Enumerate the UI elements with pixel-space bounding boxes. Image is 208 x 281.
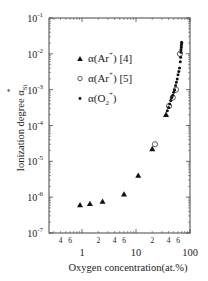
x-minor-tick-label: 4 [59, 236, 63, 245]
legend-label: α(Ar+) [5] [88, 70, 132, 85]
legend-triangle-icon [77, 56, 83, 61]
triangle-marker [135, 172, 141, 177]
x-minor-tick-label: 6 [122, 236, 126, 245]
y-tick-label: 10-3 [27, 83, 43, 96]
x-minor-tick-label: 2 [96, 236, 100, 245]
x-minor-tick-label: 6 [176, 236, 180, 245]
dot-marker [176, 77, 179, 80]
dot-marker [166, 109, 169, 112]
x-tick-label: 1 [79, 247, 84, 258]
y-tick-label: 10-4 [27, 119, 43, 132]
x-minor-tick-label: 4 [167, 236, 171, 245]
x-minor-tick-label: 4 [113, 236, 117, 245]
x-tick-label: 100 [182, 247, 198, 258]
chart: 10-710-610-510-410-310-210-1 11010046246… [0, 0, 208, 281]
triangle-marker [87, 201, 93, 206]
svg-text:Ionization degree αSi*: Ionization degree αSi* [6, 84, 29, 171]
x-minor-tick-label: 2 [150, 236, 154, 245]
dot-marker [168, 102, 171, 105]
y-tick-label: 10-2 [27, 47, 43, 60]
open-circle-marker [152, 142, 157, 147]
dot-marker [179, 51, 182, 54]
legend-dot-icon [79, 97, 82, 100]
y-tick-label: 10-1 [27, 11, 43, 24]
y-axis-ticks: 10-710-610-510-410-310-210-1 [27, 11, 190, 239]
dot-marker [169, 99, 172, 102]
legend-circle-icon [78, 76, 82, 80]
dot-marker [177, 73, 180, 76]
legend: α(Ar+) [4]α(Ar+) [5]α(O2+) [77, 50, 132, 107]
dot-marker [173, 88, 176, 91]
y-axis-label: Ionization degree αSi* [6, 84, 29, 171]
triangle-marker [77, 202, 83, 207]
dot-marker [174, 84, 177, 87]
dot-marker [179, 56, 182, 59]
triangle-marker [121, 191, 127, 196]
triangle-marker [163, 112, 169, 117]
plot-frame [49, 18, 190, 233]
dot-marker [179, 60, 182, 63]
triangle-marker [100, 198, 106, 203]
x-tick-label: 10 [131, 247, 142, 258]
dot-marker [171, 94, 174, 97]
dot-marker [167, 106, 170, 109]
legend-label: α(Ar+) [4] [88, 50, 132, 65]
y-tick-label: 10-6 [27, 190, 43, 203]
dot-marker [177, 70, 180, 73]
y-tick-label: 10-7 [27, 226, 43, 239]
dot-marker [175, 81, 178, 84]
dot-marker [178, 67, 181, 70]
y-tick-label: 10-5 [27, 154, 43, 167]
data-points [77, 41, 183, 208]
dot-marker [180, 41, 183, 44]
x-axis-label: Oxygen concentration(at.%) [69, 262, 188, 274]
x-minor-tick-label: 6 [68, 236, 72, 245]
legend-label: α(O2+) [88, 90, 117, 107]
